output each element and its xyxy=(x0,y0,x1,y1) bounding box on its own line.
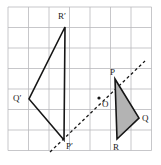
triangles-layer xyxy=(29,27,139,140)
vertex-label-p: P xyxy=(110,68,115,77)
geometry-figure: R′Q′P′POQR xyxy=(0,0,161,165)
vertex-label-p-prime: P′ xyxy=(66,142,73,151)
vertex-label-o: O xyxy=(102,100,109,109)
vertex-label-q-prime: Q′ xyxy=(13,94,21,103)
centre-point-dot xyxy=(97,96,100,99)
vertex-label-q: Q xyxy=(142,114,149,123)
vertex-label-r: R xyxy=(113,143,119,152)
vertex-label-r-prime: R′ xyxy=(58,12,66,21)
centre-o xyxy=(97,96,100,99)
grid-lines xyxy=(8,7,152,151)
figure-canvas xyxy=(0,0,161,165)
triangle-p-prime-q-prime-r-prime xyxy=(29,27,65,140)
